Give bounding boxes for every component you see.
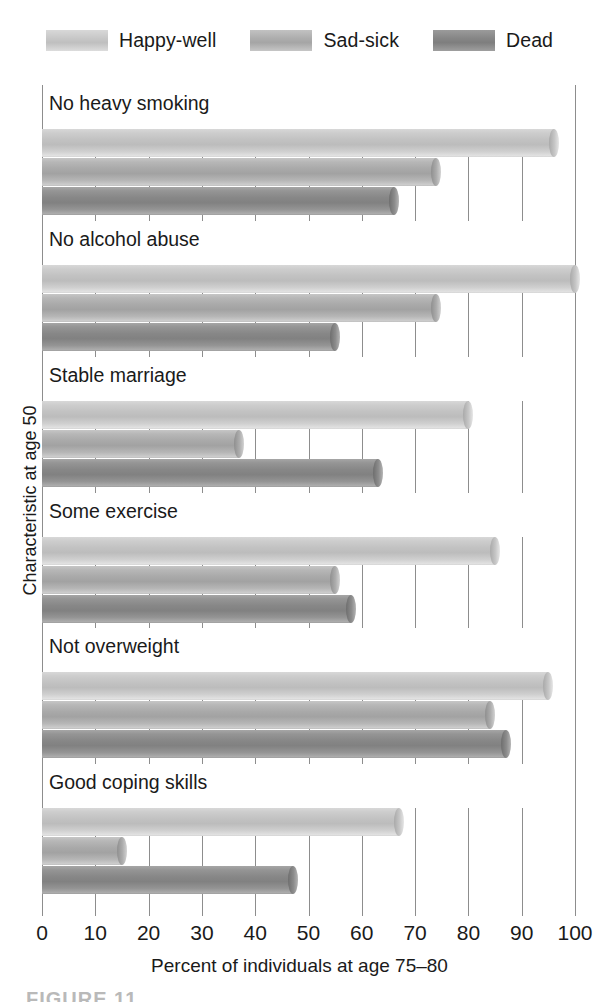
legend-label-happy-well: Happy-well xyxy=(119,29,216,52)
bar-body xyxy=(42,401,468,429)
bar-body xyxy=(42,430,239,458)
x-tick-label: 10 xyxy=(84,921,107,945)
bar-end-cap xyxy=(394,808,404,836)
bar-body xyxy=(42,808,399,836)
bar-body xyxy=(42,730,506,758)
bar-body xyxy=(42,294,436,322)
x-tick-label: 20 xyxy=(137,921,160,945)
chart-legend: Happy-well Sad-sick Dead xyxy=(0,20,599,60)
x-tick-100 xyxy=(575,900,576,916)
gridline-100 xyxy=(575,85,576,900)
bar-end-cap xyxy=(288,866,298,894)
bar-body xyxy=(42,265,575,293)
x-tick-80 xyxy=(468,900,469,916)
bar-body xyxy=(42,158,436,186)
x-axis-title: Percent of individuals at age 75–80 xyxy=(0,955,599,977)
x-tick-label: 0 xyxy=(36,921,48,945)
group-label: No alcohol abuse xyxy=(49,228,204,251)
bar-group: No heavy smoking xyxy=(42,85,575,221)
x-tick-label: 70 xyxy=(403,921,426,945)
legend-entry-dead: Dead xyxy=(433,29,553,52)
figure-caption: FIGURE 11 xyxy=(26,988,137,1002)
bar-body xyxy=(42,129,554,157)
bar-end-cap xyxy=(501,730,511,758)
bar-body xyxy=(42,837,122,865)
bar xyxy=(42,158,436,186)
bar-group: Good coping skills xyxy=(42,764,575,900)
bar xyxy=(42,808,399,836)
group-label: Stable marriage xyxy=(49,364,191,387)
y-axis-title: Characteristic at age 50 xyxy=(20,351,41,651)
bar xyxy=(42,537,495,565)
bar-end-cap xyxy=(549,129,559,157)
x-tick-60 xyxy=(362,900,363,916)
bar-end-cap xyxy=(431,158,441,186)
x-tick-label: 90 xyxy=(510,921,533,945)
group-label: Good coping skills xyxy=(49,771,211,794)
bar xyxy=(42,430,239,458)
x-tick-30 xyxy=(202,900,203,916)
bar-end-cap xyxy=(389,187,399,215)
bar-end-cap xyxy=(330,566,340,594)
bar xyxy=(42,837,122,865)
x-tick-20 xyxy=(149,900,150,916)
bar-end-cap xyxy=(330,323,340,351)
x-tick-label: 100 xyxy=(557,921,592,945)
plot-area: No heavy smokingNo alcohol abuseStable m… xyxy=(42,85,575,900)
x-tick-label: 60 xyxy=(350,921,373,945)
bar-body xyxy=(42,701,490,729)
bar-end-cap xyxy=(543,672,553,700)
bar-end-cap xyxy=(117,837,127,865)
bar-end-cap xyxy=(485,701,495,729)
x-tick-label: 50 xyxy=(297,921,320,945)
bar xyxy=(42,401,468,429)
legend-swatch-dead xyxy=(433,30,495,51)
bar-body xyxy=(42,595,351,623)
x-tick-50 xyxy=(309,900,310,916)
legend-swatch-happy-well xyxy=(46,30,108,51)
bar-group: Not overweight xyxy=(42,628,575,764)
x-tick-10 xyxy=(95,900,96,916)
legend-label-sad-sick: Sad-sick xyxy=(323,29,399,52)
bar-body xyxy=(42,566,335,594)
bar-group: Some exercise xyxy=(42,493,575,629)
x-tick-label: 80 xyxy=(457,921,480,945)
bar xyxy=(42,595,351,623)
group-label: Some exercise xyxy=(49,500,182,523)
legend-entry-sad-sick: Sad-sick xyxy=(250,29,399,52)
bar xyxy=(42,730,506,758)
bar-end-cap xyxy=(570,265,580,293)
legend-entry-happy-well: Happy-well xyxy=(46,29,216,52)
bar-end-cap xyxy=(463,401,473,429)
bar xyxy=(42,323,335,351)
legend-label-dead: Dead xyxy=(506,29,553,52)
bar xyxy=(42,294,436,322)
bar-body xyxy=(42,672,548,700)
group-label: Not overweight xyxy=(49,635,183,658)
bar xyxy=(42,866,293,894)
bar-end-cap xyxy=(490,537,500,565)
x-tick-40 xyxy=(255,900,256,916)
bar xyxy=(42,672,548,700)
bar-end-cap xyxy=(346,595,356,623)
bar-body xyxy=(42,866,293,894)
figure-bar-chart: Happy-well Sad-sick Dead No heavy smokin… xyxy=(0,0,599,1002)
bar-groups: No heavy smokingNo alcohol abuseStable m… xyxy=(42,85,575,900)
x-tick-label: 30 xyxy=(190,921,213,945)
bar xyxy=(42,566,335,594)
bar xyxy=(42,459,378,487)
bar-body xyxy=(42,187,394,215)
bar-end-cap xyxy=(431,294,441,322)
group-label: No heavy smoking xyxy=(49,92,213,115)
bar xyxy=(42,129,554,157)
bar-body xyxy=(42,323,335,351)
bar-group: No alcohol abuse xyxy=(42,221,575,357)
bar xyxy=(42,701,490,729)
bar-end-cap xyxy=(373,459,383,487)
bar xyxy=(42,265,575,293)
x-tick-90 xyxy=(522,900,523,916)
bar-body xyxy=(42,459,378,487)
bar xyxy=(42,187,394,215)
bar-group: Stable marriage xyxy=(42,357,575,493)
x-tick-70 xyxy=(415,900,416,916)
